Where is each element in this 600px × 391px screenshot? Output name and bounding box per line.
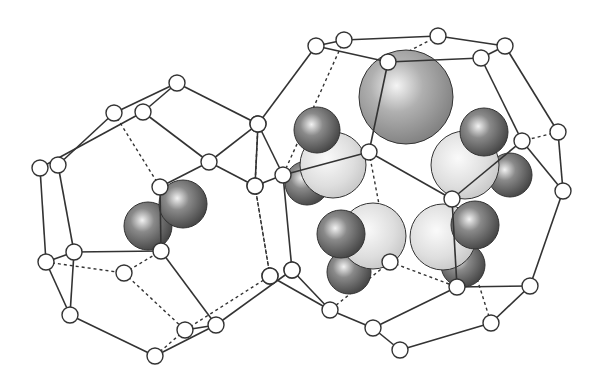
water-oxygen-node [322,302,338,318]
hydrogen-bond [161,251,216,325]
hydrogen-bond-hidden [46,262,124,273]
water-oxygen-node [284,262,300,278]
water-oxygen-node [208,317,224,333]
water-oxygen-node [50,157,66,173]
water-oxygen-node [430,28,446,44]
guest-atom-sphere [460,108,508,156]
water-oxygen-node [275,167,291,183]
water-oxygen-node [522,278,538,294]
water-oxygen-node [147,348,163,364]
hydrogen-bond [70,252,74,315]
hydrogen-bond [558,132,563,191]
hydrogen-bond [58,113,114,165]
water-oxygen-node [152,179,168,195]
water-oxygen-node [365,320,381,336]
water-oxygen-node [116,265,132,281]
water-oxygen-node [201,154,217,170]
hydrogen-bond [70,315,155,356]
water-oxygen-node [361,144,377,160]
hydrogen-bond [255,124,258,186]
water-oxygen-node [177,322,193,338]
hydrogen-bond [400,323,491,350]
water-oxygen-node [38,254,54,270]
water-oxygen-node [247,178,263,194]
guest-atom-sphere [294,107,340,153]
water-oxygen-node [169,75,185,91]
water-oxygen-node [135,104,151,120]
hydrogen-bond [438,36,505,46]
water-oxygen-node [392,342,408,358]
figure-caption [0,382,600,391]
hydrogen-bond [40,168,46,262]
hydrogen-bond [58,165,74,252]
hydrogen-bond [316,46,388,62]
hydrogen-bond [505,46,558,132]
guest-atom-sphere [451,201,499,249]
hydrogen-bond [160,187,161,251]
water-oxygen-node [153,243,169,259]
water-oxygen-node [308,38,324,54]
hydrogen-bond [177,83,258,124]
water-oxygen-node [473,50,489,66]
water-oxygen-node [380,54,396,70]
water-oxygen-node [262,268,278,284]
hydrogen-bond [530,191,563,286]
hydrogen-bond [344,36,438,40]
hydrogen-bond [46,262,70,315]
water-oxygen-node [514,133,530,149]
water-oxygen-node [250,116,266,132]
hydrogen-bond-hidden [185,276,270,330]
water-oxygen-node [336,32,352,48]
water-oxygen-node [382,254,398,270]
clathrate-cage-diagram [0,0,600,391]
hydrogen-bond [373,287,457,328]
hydrogen-bond [74,251,161,252]
water-oxygen-node [555,183,571,199]
hydrogen-bond [209,124,258,162]
hydrogen-bond [270,276,330,310]
water-oxygen-node [449,279,465,295]
water-oxygen-node [550,124,566,140]
water-oxygen-node [32,160,48,176]
water-oxygen-node [497,38,513,54]
water-oxygen-node [66,244,82,260]
water-oxygen-node [62,307,78,323]
hydrogen-bond [457,286,530,287]
water-oxygen-node [106,105,122,121]
water-oxygen-node [444,191,460,207]
hydrogen-bond [143,112,209,162]
hydrogen-bond-hidden [124,273,185,330]
hydrogen-bond [216,270,292,325]
water-oxygen-node [483,315,499,331]
guest-atom-sphere [317,210,365,258]
